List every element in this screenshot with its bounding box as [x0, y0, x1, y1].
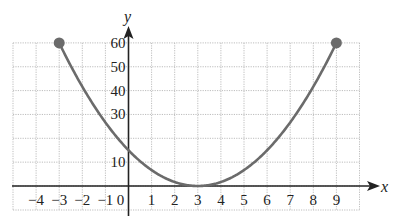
x-tick-label: 9 — [333, 192, 341, 208]
parabola-chart: x y −4−3−2−10123456789102030405060 — [0, 0, 393, 219]
y-tick-label: 10 — [111, 154, 126, 170]
x-tick-label: 7 — [286, 192, 294, 208]
x-tick-label: 1 — [148, 192, 156, 208]
x-tick-label: −4 — [28, 192, 44, 208]
y-axis-label: y — [122, 8, 132, 26]
y-tick-label: 30 — [111, 106, 126, 122]
endpoint-dot-icon — [54, 37, 65, 48]
y-tick-label: 50 — [111, 59, 126, 75]
y-tick-label: 60 — [111, 35, 126, 51]
x-tick-label: −3 — [51, 192, 67, 208]
tick-labels: −4−3−2−10123456789102030405060 — [28, 35, 340, 208]
y-tick-label: 40 — [111, 83, 126, 99]
x-tick-label: 6 — [263, 192, 271, 208]
x-tick-label: 5 — [240, 192, 248, 208]
x-tick-label: 8 — [310, 192, 318, 208]
x-tick-label: −2 — [74, 192, 90, 208]
x-tick-label: 4 — [217, 192, 225, 208]
x-tick-label: 2 — [171, 192, 179, 208]
parabola-curve — [59, 43, 336, 186]
endpoint-dot-icon — [331, 37, 342, 48]
x-tick-label: 3 — [194, 192, 202, 208]
x-tick-label: −1 — [97, 192, 113, 208]
x-axis-label: x — [380, 178, 388, 195]
x-tick-label: 0 — [117, 192, 125, 208]
